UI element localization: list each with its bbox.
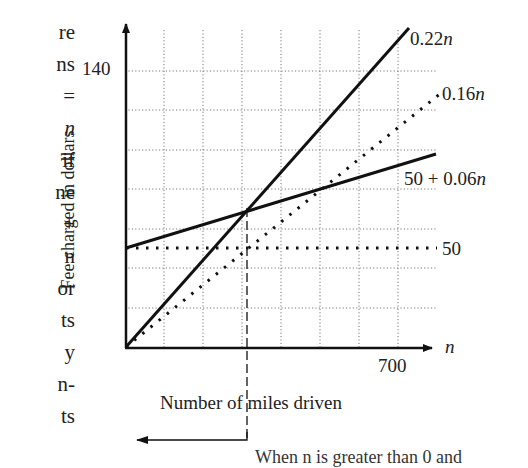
bottom-cropped-text: When n is greater than 0 and: [255, 447, 462, 468]
label-0-16n: 0.16n: [442, 83, 485, 105]
y-tick-140: 140: [82, 58, 111, 80]
line-0-22n: [126, 28, 409, 347]
grid: [125, 30, 437, 348]
label-0-22n: 0.22n: [410, 28, 453, 50]
x-tick-700: 700: [378, 355, 407, 377]
line-50-plus-0-06n: [126, 154, 436, 248]
label-50-plus-0-06n: 50 + 0.06n: [404, 168, 486, 190]
x-axis-symbol: n: [445, 336, 455, 357]
x-axis-label: Number of miles driven: [160, 392, 342, 414]
left-arrow: [137, 432, 247, 440]
line-0-16n: [126, 93, 441, 347]
label-50: 50: [442, 238, 461, 260]
